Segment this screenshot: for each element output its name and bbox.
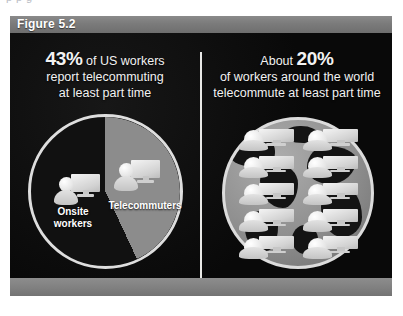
us-workers-panel: 43% of US workers report telecommuting a… <box>10 33 200 278</box>
monitor-base-shape <box>137 180 154 183</box>
monitor-base-shape <box>77 194 94 197</box>
person-body-shape <box>239 247 268 258</box>
person-body-shape <box>239 140 268 151</box>
person-body-shape <box>239 194 268 205</box>
person-computer-icon <box>238 181 294 206</box>
person-computer-icon <box>238 154 294 179</box>
person-computer-icon <box>302 207 358 232</box>
person-body-shape <box>114 176 138 192</box>
worker-icon-grid <box>238 127 358 259</box>
monitor-base-shape <box>266 224 286 226</box>
monitor-base-shape <box>330 251 350 253</box>
monitor-base-shape <box>266 197 286 199</box>
person-body-shape <box>303 220 332 231</box>
headline-line-1-text: of US workers <box>83 54 165 68</box>
world-workers-panel: About 20% of workers around the world te… <box>202 33 392 278</box>
pie-label-onsite: Onsite workers <box>42 206 104 230</box>
figure-container: Figure 5.2 43% of US workers report tele… <box>10 16 392 296</box>
monitor-base-shape <box>330 143 350 145</box>
headline-line-2: of workers around the world <box>202 69 392 85</box>
world-pictogram-chart <box>222 117 374 269</box>
monitor-base-shape <box>266 170 286 172</box>
pie-label-onsite-line-2: workers <box>54 218 92 229</box>
person-computer-icon <box>238 234 294 259</box>
headline-line-1: About 20% <box>202 51 392 69</box>
figure-number-label: Figure 5.2 <box>17 17 76 31</box>
person-body-shape <box>54 190 78 206</box>
person-computer-icon <box>302 234 358 259</box>
pie-label-onsite-line-1: Onsite <box>57 206 88 217</box>
headline-line-1: 43% of US workers <box>10 51 200 69</box>
person-computer-icon <box>114 158 160 192</box>
monitor-base-shape <box>330 197 350 199</box>
figure-body: 43% of US workers report telecommuting a… <box>10 33 392 278</box>
person-computer-icon <box>238 207 294 232</box>
page-text-remnant-line: p p g <box>6 0 32 3</box>
figure-header-bar: Figure 5.2 <box>10 16 392 33</box>
figure-footer-bar <box>10 278 392 296</box>
page-text-remnant: p p g <box>0 0 403 14</box>
pie-label-telecommuters: Telecommuters <box>102 200 188 212</box>
person-computer-icon <box>302 181 358 206</box>
headline-line-2: report telecommuting <box>10 69 200 85</box>
world-workers-headline: About 20% of workers around the world te… <box>202 51 392 101</box>
world-percent-value: 20% <box>297 48 334 69</box>
monitor-base-shape <box>330 224 350 226</box>
person-computer-icon <box>302 154 358 179</box>
headline-line-3: telecommute at least part time <box>202 85 392 101</box>
us-workers-headline: 43% of US workers report telecommuting a… <box>10 51 200 101</box>
person-body-shape <box>303 167 332 178</box>
person-body-shape <box>303 140 332 151</box>
headline-line-3: at least part time <box>10 85 200 101</box>
person-body-shape <box>239 167 268 178</box>
monitor-base-shape <box>266 251 286 253</box>
person-body-shape <box>303 247 332 258</box>
person-computer-icon <box>302 127 358 152</box>
us-percent-value: 43% <box>45 48 82 69</box>
monitor-base-shape <box>330 170 350 172</box>
person-computer-icon <box>54 172 100 206</box>
person-computer-icon <box>238 127 294 152</box>
headline-about-text: About <box>260 54 296 68</box>
us-pie-chart: Onsite workers Telecommuters <box>28 114 183 269</box>
monitor-base-shape <box>266 143 286 145</box>
person-body-shape <box>303 194 332 205</box>
person-body-shape <box>239 220 268 231</box>
